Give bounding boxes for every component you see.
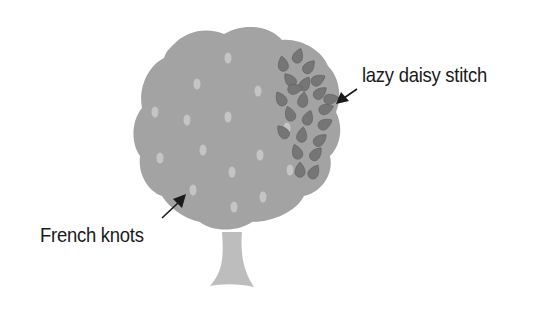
- french-knot: [152, 107, 159, 118]
- french-knot: [260, 192, 267, 203]
- french-knot: [184, 115, 191, 126]
- french-knots-label: French knots: [40, 223, 144, 247]
- french-knot: [157, 153, 164, 164]
- french-knot: [229, 167, 236, 178]
- french-knot: [225, 53, 232, 64]
- tree-diagram: [0, 0, 533, 313]
- french-knot: [255, 86, 262, 97]
- french-knot: [194, 79, 201, 90]
- tree-canopy: [133, 27, 340, 230]
- french-knot: [190, 185, 197, 196]
- french-knot: [287, 165, 294, 176]
- lazy-daisy-stitch-label: lazy daisy stitch: [362, 63, 487, 87]
- french-knot: [231, 202, 238, 213]
- french-knot: [225, 112, 232, 123]
- french-knot: [257, 150, 264, 161]
- tree-trunk: [210, 232, 254, 287]
- french-knot: [200, 145, 207, 156]
- lazy-daisy-arrow-icon: [336, 89, 357, 104]
